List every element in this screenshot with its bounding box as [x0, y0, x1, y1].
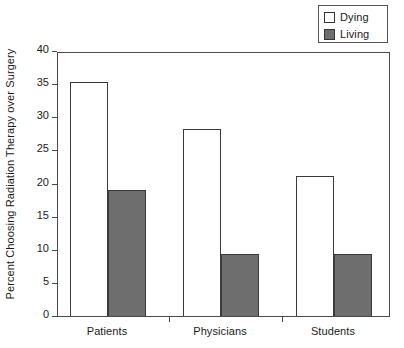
legend-item-dying: Dying [324, 9, 383, 25]
y-axis-title: Percent Choosing Radiation Therapy over … [0, 0, 20, 348]
bar-physicians-dying [183, 129, 221, 316]
plot-area [57, 52, 390, 317]
bar-physicians-living [221, 254, 259, 316]
bar-students-living [334, 254, 372, 316]
chart-legend: Dying Living [318, 5, 388, 43]
legend-label-dying: Dying [340, 12, 369, 23]
bar-students-dying [296, 176, 334, 316]
bar-patients-dying [70, 82, 108, 316]
x-axis-tick-0 [169, 317, 170, 322]
y-tick-label: 5 [43, 276, 49, 287]
legend-item-living: Living [324, 26, 383, 42]
y-tick-label: 25 [37, 143, 49, 154]
white-square-icon [324, 12, 335, 23]
x-axis-label-students: Students [283, 325, 383, 337]
y-tick-label: 35 [37, 77, 49, 88]
x-axis-label-physicians: Physicians [170, 325, 270, 337]
x-axis-tick-1 [282, 317, 283, 322]
y-axis-title-text: Percent Choosing Radiation Therapy over … [4, 49, 16, 300]
gray-square-icon [324, 29, 335, 40]
bars-container [58, 53, 389, 316]
legend-label-living: Living [340, 29, 369, 40]
y-tick-label: 10 [37, 243, 49, 254]
y-tick-label: 15 [37, 210, 49, 221]
y-tick-label: 20 [37, 177, 49, 188]
y-tick-label: 30 [37, 110, 49, 121]
x-axis-label-patients: Patients [57, 325, 157, 337]
bar-patients-living [108, 190, 146, 316]
y-tick-label: 0 [43, 309, 49, 320]
y-tick-label: 40 [37, 44, 49, 55]
